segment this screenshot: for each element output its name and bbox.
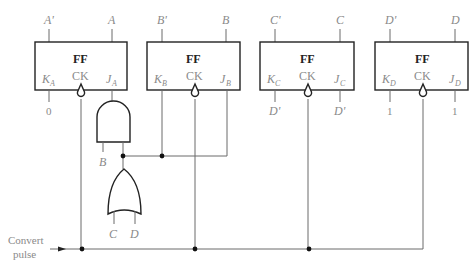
flipflop-c-j-input: D' [333,104,346,118]
flipflop-c-k-sub: C [275,79,281,88]
arrow-right-icon [58,247,66,252]
flipflop-b-k-sub: B [162,79,167,88]
flipflop-d-ck-label: CK [414,69,431,83]
junction-dot [121,154,126,159]
flipflop-d-k-sub: D [389,79,396,88]
junction-dot [307,247,312,252]
flipflop-b: B' B FF K B CK J B [147,13,240,156]
flipflop-d: D' D FF K D CK J D 1 1 [375,13,468,117]
flipflop-d-j-input: 1 [452,105,458,117]
or-gate-input-d: D [129,227,139,241]
flipflop-c: C' C FF K C CK J C D' D' [260,13,354,118]
output-d-label: D [450,13,460,27]
flipflop-c-title: FF [300,52,315,66]
flipflop-d-title: FF [415,52,430,66]
and-gate-icon [97,101,130,142]
flipflop-c-k-input: D' [268,104,281,118]
and-gate-input-b: B [99,155,107,169]
junction-dot [160,154,165,159]
flipflop-b-ck-label: CK [186,69,203,83]
flipflop-c-j-sub: C [340,79,346,88]
flipflop-a-j-sub: A [111,79,117,88]
flipflop-d-k-input: 1 [387,105,393,117]
or-gate-icon [108,169,141,214]
output-a-label: A [107,13,116,27]
output-d-prime-label: D' [384,13,397,27]
convert-pulse-label-line1: Convert [8,234,43,246]
flipflop-a-ck-label: CK [72,69,89,83]
output-c-prime-label: C' [270,13,281,27]
circuit-diagram: A' A FF K A CK J A 0 B' B FF K B CK J B … [0,0,476,268]
output-b-prime-label: B' [157,13,167,27]
flipflop-c-ck-label: CK [299,69,316,83]
flipflop-a-k-input: 0 [46,105,52,117]
flipflop-b-title: FF [186,52,201,66]
flipflop-a-k-sub: A [49,79,55,88]
junction-dot [80,247,85,252]
convert-pulse-label-line2: pulse [13,248,36,260]
junction-dot [193,247,198,252]
output-c-label: C [336,13,345,27]
or-gate: C D [108,169,141,241]
output-b-label: B [222,13,230,27]
and-gate: B [97,101,130,169]
output-a-prime-label: A' [43,13,54,27]
flipflop-a-title: FF [73,52,88,66]
or-gate-input-c: C [109,227,118,241]
flipflop-d-j-sub: D [454,79,461,88]
flipflop-b-j-sub: B [226,79,231,88]
